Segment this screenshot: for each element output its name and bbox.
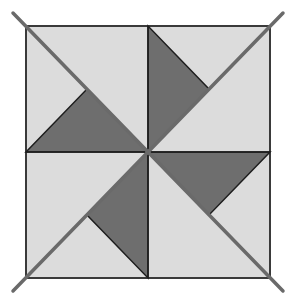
pinwheel-diagram — [0, 0, 300, 306]
